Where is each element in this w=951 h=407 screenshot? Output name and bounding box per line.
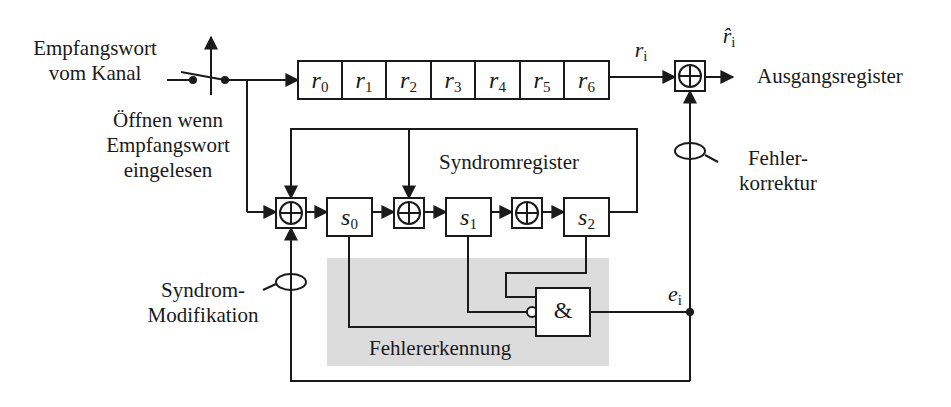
switch-label-line2: Empfangswort bbox=[98, 133, 238, 158]
switch-label: Öffnen wenn Empfangswort eingelesen bbox=[98, 108, 238, 183]
switch-label-line1: Öffnen wenn bbox=[98, 108, 238, 133]
correction-label: Fehler- korrektur bbox=[728, 146, 828, 196]
and-gate-symbol: & bbox=[536, 298, 590, 323]
switch-label-line3: eingelesen bbox=[98, 158, 238, 183]
input-label: Empfangswort vom Kanal bbox=[20, 36, 170, 86]
register-cell-r1: r1 bbox=[342, 68, 386, 99]
correction-label-line1: Fehler- bbox=[728, 146, 828, 171]
register-cell-r5: r5 bbox=[520, 68, 564, 99]
register-cell-r3: r3 bbox=[431, 68, 475, 99]
register-cell-r2: r2 bbox=[386, 68, 431, 99]
signal-ei: ei bbox=[660, 282, 690, 312]
signal-ri-hat: r̂i bbox=[714, 24, 744, 54]
syndrome-cell-s0: s0 bbox=[327, 205, 372, 236]
register-cell-r6: r6 bbox=[564, 68, 609, 99]
register-cell-r0: r0 bbox=[298, 68, 342, 99]
syndrome-cell-s2: s2 bbox=[564, 205, 609, 236]
correction-label-line2: korrektur bbox=[728, 171, 828, 196]
syndrome-modification-label: Syndrom- Modifikation bbox=[138, 278, 268, 328]
syndrome-mod-line1: Syndrom- bbox=[138, 278, 268, 303]
signal-ri: ri bbox=[626, 38, 656, 68]
syndrome-register-label: Syndromregister bbox=[439, 150, 579, 175]
register-cell-r4: r4 bbox=[475, 68, 520, 99]
shift-register-decoder-diagram: Empfangswort vom Kanal Öffnen wenn Empfa… bbox=[0, 0, 951, 407]
syndrome-mod-line2: Modifikation bbox=[138, 303, 268, 328]
input-label-line1: Empfangswort bbox=[20, 36, 170, 61]
error-detection-label: Fehlererkennung bbox=[369, 336, 511, 361]
output-register-label: Ausgangsregister bbox=[757, 64, 903, 89]
syndrome-cell-s1: s1 bbox=[446, 205, 491, 236]
input-label-line2: vom Kanal bbox=[20, 61, 170, 86]
